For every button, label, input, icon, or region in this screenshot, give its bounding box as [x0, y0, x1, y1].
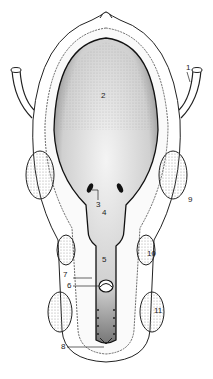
- gland-9-right: [159, 151, 187, 199]
- gland-11-left: [48, 292, 72, 332]
- ureter-left: [11, 68, 34, 119]
- label-5: 5: [102, 256, 106, 264]
- ureter-right: [179, 68, 202, 119]
- label-7: 7: [63, 271, 67, 279]
- gland-10-left: [57, 235, 75, 265]
- label-9: 9: [188, 196, 192, 204]
- label-4: 4: [102, 209, 106, 217]
- label-10: 10: [147, 250, 156, 258]
- diagram-drawing: [0, 0, 213, 379]
- label-8: 8: [61, 343, 65, 351]
- label-11: 11: [154, 307, 162, 315]
- label-1: 1: [186, 64, 190, 72]
- label-2: 2: [101, 92, 105, 100]
- label-6: 6: [67, 282, 71, 290]
- label-3: 3: [96, 201, 100, 209]
- anatomical-diagram: 1 2 3 4 5 6 7 8 9 10 11: [0, 0, 213, 379]
- gland-9-left: [26, 151, 54, 199]
